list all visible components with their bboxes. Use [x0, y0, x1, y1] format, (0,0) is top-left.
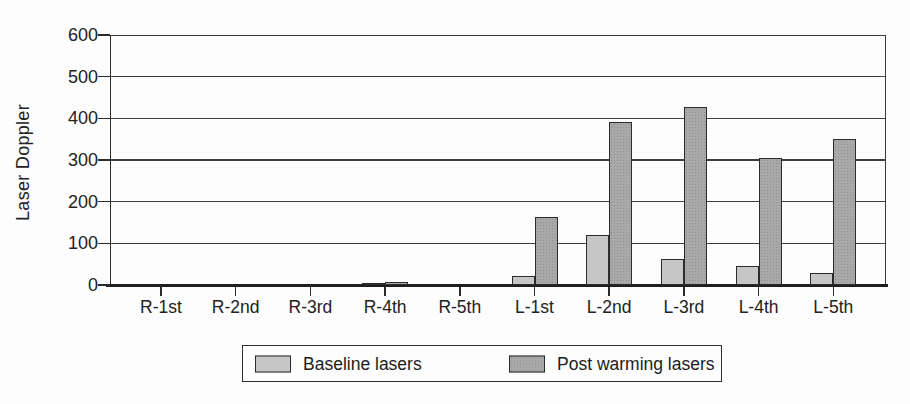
bar-L-4th-baseline	[736, 266, 759, 285]
legend-swatch-baseline	[255, 355, 291, 372]
y-tick-label-300: 300	[36, 149, 98, 171]
y-tick-mark-400	[98, 118, 110, 119]
x-tick-label-R-4th: R-4th	[347, 297, 423, 318]
y-tick-label-0: 0	[36, 274, 98, 296]
x-tick-label-R-5th: R-5th	[422, 297, 498, 318]
x-tick-mark-L-3rd	[683, 287, 685, 296]
legend-item-post-warming: Post warming lasers	[509, 353, 715, 374]
gridline-500	[110, 76, 886, 77]
bar-L-4th-post-warming	[759, 158, 782, 285]
bar-L-1st-post-warming	[535, 217, 558, 285]
x-tick-label-L-4th: L-4th	[721, 297, 797, 318]
x-tick-mark-R-5th	[459, 287, 461, 296]
x-tick-label-R-2nd: R-2nd	[198, 297, 274, 318]
laser-doppler-bar-chart: Laser Doppler Baseline lasers Post warmi…	[0, 0, 910, 404]
x-tick-label-L-2nd: L-2nd	[571, 297, 647, 318]
legend-swatch-post-warming	[509, 355, 545, 372]
x-tick-mark-L-2nd	[608, 287, 610, 296]
y-tick-mark-200	[98, 201, 110, 202]
bar-R-4th-baseline	[362, 283, 385, 285]
x-tick-mark-L-5th	[833, 287, 835, 296]
legend-label-post-warming: Post warming lasers	[557, 353, 715, 374]
bar-L-2nd-baseline	[586, 235, 609, 285]
legend: Baseline lasers Post warming lasers	[242, 345, 722, 382]
gridline-400	[110, 118, 886, 119]
bar-L-3rd-baseline	[661, 259, 684, 285]
x-tick-label-L-1st: L-1st	[497, 297, 573, 318]
x-tick-mark-R-3rd	[310, 287, 312, 296]
x-tick-mark-R-4th	[384, 287, 386, 296]
x-tick-mark-L-4th	[758, 287, 760, 296]
x-tick-label-R-1st: R-1st	[123, 297, 199, 318]
y-tick-label-500: 500	[36, 66, 98, 88]
y-tick-label-400: 400	[36, 107, 98, 129]
y-tick-mark-100	[98, 243, 110, 244]
x-tick-label-L-5th: L-5th	[795, 297, 871, 318]
y-tick-mark-600	[98, 34, 110, 35]
y-tick-label-100: 100	[36, 232, 98, 254]
x-tick-label-L-3rd: L-3rd	[646, 297, 722, 318]
y-tick-mark-500	[98, 76, 110, 77]
y-tick-mark-0	[98, 284, 110, 285]
bar-L-5th-post-warming	[833, 139, 856, 285]
y-tick-mark-300	[98, 159, 110, 160]
x-tick-mark-L-1st	[534, 287, 536, 296]
y-tick-label-200: 200	[36, 191, 98, 213]
x-tick-mark-R-1st	[160, 287, 162, 296]
x-tick-mark-R-2nd	[235, 287, 237, 296]
legend-item-baseline: Baseline lasers	[255, 353, 422, 374]
y-tick-label-600: 600	[36, 24, 98, 46]
y-axis-title: Laser Doppler	[13, 93, 34, 233]
x-tick-label-R-3rd: R-3rd	[272, 297, 348, 318]
legend-label-baseline: Baseline lasers	[303, 353, 422, 374]
bar-L-1st-baseline	[512, 276, 535, 285]
bar-L-3rd-post-warming	[684, 107, 707, 285]
bar-L-2nd-post-warming	[609, 122, 632, 285]
bar-R-4th-post-warming	[385, 282, 408, 285]
bar-L-5th-baseline	[810, 273, 833, 285]
